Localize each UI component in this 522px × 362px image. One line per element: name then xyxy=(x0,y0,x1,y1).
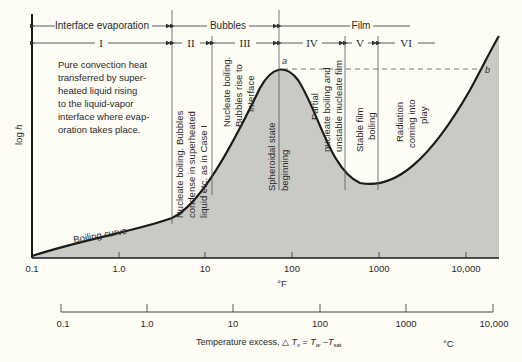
svg-text:Pure convection heat: Pure convection heat xyxy=(58,59,148,70)
svg-text:1.0: 1.0 xyxy=(140,318,153,329)
regime-label-interface-evaporation: Interface evaporation xyxy=(55,20,149,31)
svg-text:heated liquid rising: heated liquid rising xyxy=(58,85,137,96)
svg-text:0.1: 0.1 xyxy=(56,318,69,329)
svg-text:transferred by super-: transferred by super- xyxy=(58,72,146,83)
svg-text:10,000: 10,000 xyxy=(451,263,480,274)
regime-label-film: Film xyxy=(352,20,371,31)
x-tick-labels-c: 0.1 1.0 10 100 1000 10,000 xyxy=(56,318,508,329)
svg-text:unstable nucleate film: unstable nucleate film xyxy=(333,60,344,152)
svg-text:1000: 1000 xyxy=(395,318,416,329)
svg-text:Nucleate boiling.: Nucleate boiling. xyxy=(221,57,232,127)
region-label-vi: VI xyxy=(400,37,412,49)
svg-text:nucleate boiling and: nucleate boiling and xyxy=(321,67,332,152)
svg-text:to the liquid-vapor: to the liquid-vapor xyxy=(58,98,134,109)
svg-text:liquid etc. as in Case I: liquid etc. as in Case I xyxy=(198,125,209,218)
x-unit-c: °C xyxy=(443,338,454,349)
svg-text:condense in superheated: condense in superheated xyxy=(186,111,197,218)
svg-text:Stable film: Stable film xyxy=(354,108,365,152)
svg-text:interface: interface xyxy=(245,76,256,112)
svg-text:1.0: 1.0 xyxy=(112,263,125,274)
svg-text:play: play xyxy=(418,106,429,124)
x-unit-f: °F xyxy=(277,278,287,289)
svg-text:Nucleate boiling. Bubbles: Nucleate boiling. Bubbles xyxy=(174,111,185,218)
region-label-iii: III xyxy=(240,37,251,49)
boiling-curve-diagram: Interface evaporation Bubbles Film I II … xyxy=(0,0,522,362)
svg-text:coming into: coming into xyxy=(406,99,417,148)
svg-text:0.1: 0.1 xyxy=(25,263,38,274)
svg-text:10: 10 xyxy=(200,263,211,274)
x-ticks-c xyxy=(61,304,493,312)
point-b-label: b xyxy=(485,65,490,75)
svg-text:100: 100 xyxy=(284,263,300,274)
x-axis-c-label: Temperature excess, △ Tx = Tw −Tsat xyxy=(196,337,342,348)
region-ii-note: Nucleate boiling. Bubbles condense in su… xyxy=(174,111,209,218)
svg-text:Radiation: Radiation xyxy=(394,102,405,142)
region-label-ii: II xyxy=(187,37,195,49)
svg-text:oration takes place.: oration takes place. xyxy=(58,124,140,135)
svg-text:1000: 1000 xyxy=(368,263,389,274)
svg-text:10: 10 xyxy=(228,318,239,329)
y-axis-label: log h xyxy=(13,124,24,145)
region-label-i: I xyxy=(99,37,103,49)
svg-text:boiling: boiling xyxy=(366,113,377,140)
region-v-note: Stable film boiling xyxy=(354,108,377,152)
svg-text:Partial: Partial xyxy=(309,93,320,120)
regime-label-bubbles: Bubbles xyxy=(210,20,246,31)
svg-text:beginning: beginning xyxy=(279,150,290,191)
svg-text:Bubbles rise to: Bubbles rise to xyxy=(233,64,244,127)
svg-text:interface where evap-: interface where evap- xyxy=(58,111,149,122)
region-i-note: Pure convection heat transferred by supe… xyxy=(58,59,149,135)
x-tick-labels-f: 0.1 1.0 10 100 1000 10,000 xyxy=(25,263,480,274)
svg-text:100: 100 xyxy=(312,318,328,329)
svg-text:10,000: 10,000 xyxy=(479,318,508,329)
region-label-iv: IV xyxy=(306,37,318,49)
svg-text:Spheroidal state: Spheroidal state xyxy=(266,122,277,191)
point-a-label: a xyxy=(282,56,287,66)
region-label-v: V xyxy=(356,37,364,49)
region-vi-note: Radiation coming into play xyxy=(394,99,429,148)
